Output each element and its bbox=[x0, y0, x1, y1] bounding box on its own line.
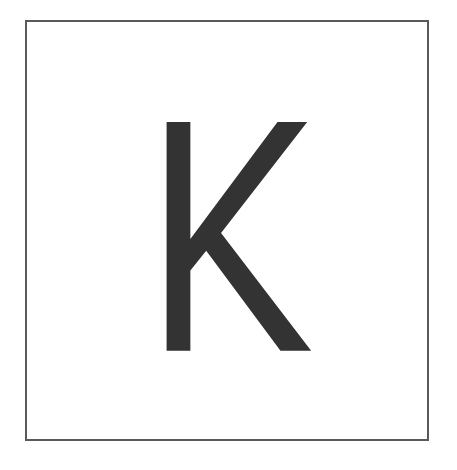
letter-k-shape bbox=[167, 122, 312, 351]
letter-card: K bbox=[25, 20, 429, 441]
letter-glyph: K bbox=[27, 22, 427, 439]
